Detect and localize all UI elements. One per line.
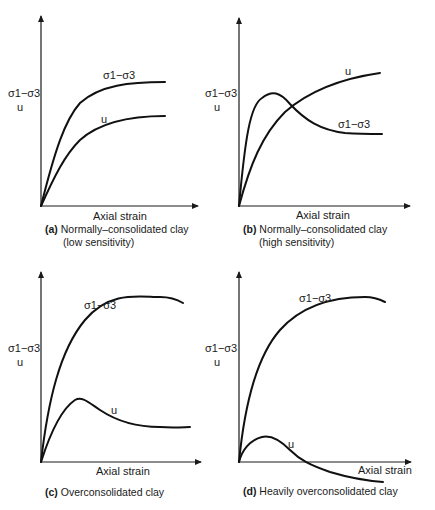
- pore-pressure-curve: [239, 73, 380, 206]
- pore-pressure-curve-label: u: [288, 438, 294, 450]
- panel-a: σ1−σ3 u σ1−σ3 u Axial strain (a) Normall…: [8, 16, 198, 248]
- deviator-stress-curve: [41, 296, 183, 462]
- pore-pressure-curve: [41, 116, 165, 206]
- panel-d: σ1−σ3 u σ1−σ3 u Axial strain (d) Heavily…: [205, 272, 412, 497]
- panel-caption-sub: (high sensitivity): [259, 236, 334, 248]
- y-axis-label: σ1−σ3: [205, 342, 237, 354]
- figure-canvas: σ1−σ3 u σ1−σ3 u Axial strain (a) Normall…: [0, 0, 435, 510]
- y-axis-label: σ1−σ3: [205, 87, 237, 99]
- deviator-curve-label: σ1−σ3: [84, 299, 116, 311]
- panel-caption: (c) Overconsolidated clay: [45, 486, 165, 498]
- x-axis-label: Axial strain: [93, 210, 147, 222]
- x-axis-label: Axial strain: [96, 465, 150, 477]
- y-axis-label-u: u: [214, 356, 220, 368]
- deviator-stress-curve: [41, 82, 165, 206]
- deviator-stress-curve: [239, 93, 382, 206]
- pore-pressure-curve-label: u: [111, 404, 117, 416]
- y-axis-label: σ1−σ3: [8, 87, 40, 99]
- pore-pressure-curve-label: u: [345, 65, 351, 77]
- x-axis-label: Axial strain: [358, 464, 412, 476]
- panel-caption-sub: (low sensitivity): [63, 236, 134, 248]
- y-axis-label-u: u: [17, 356, 23, 368]
- panel-caption: (b) Normally–consolidated clay: [243, 223, 388, 235]
- deviator-curve-label: σ1−σ3: [299, 292, 331, 304]
- panel-caption: (a) Normally–consolidated clay: [45, 223, 189, 235]
- panel-c: σ1−σ3 u σ1−σ3 u Axial strain (c) Overcon…: [8, 272, 201, 498]
- deviator-curve-label: σ1−σ3: [338, 118, 370, 130]
- x-axis-label: Axial strain: [296, 209, 350, 221]
- panel-caption: (d) Heavily overconsolidated clay: [243, 485, 398, 497]
- y-axis-label-u: u: [17, 101, 23, 113]
- y-axis-label: σ1−σ3: [8, 342, 40, 354]
- panel-b: u σ1−σ3 σ1−σ3 u Axial strain (b) Normall…: [205, 18, 410, 248]
- y-axis-label-u: u: [214, 101, 220, 113]
- deviator-curve-label: σ1−σ3: [103, 69, 135, 81]
- pore-pressure-curve-label: u: [101, 113, 107, 125]
